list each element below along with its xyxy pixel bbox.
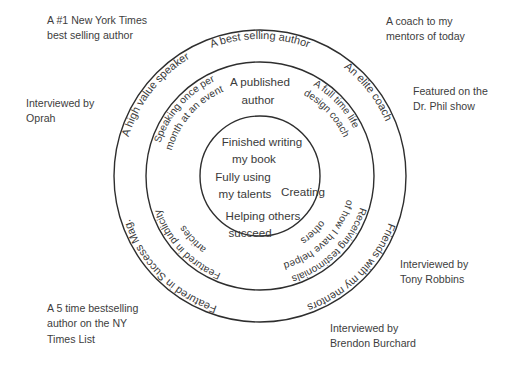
inner-label-fully-using-line1: Fully using [215, 170, 270, 183]
outside-label-nyt-bestseller: A #1 New York Times best selling author [47, 13, 197, 44]
inner-label-creating: Creating [281, 185, 325, 198]
outside-label-interviewed-oprah: Interviewed by Oprah [26, 96, 146, 127]
middle-label-published-author-line1: A published [230, 75, 290, 88]
outside-label-five-time-bestselling: A 5 time bestselling author on the NY Ti… [47, 301, 177, 347]
middle-label-published-author-line2: author [242, 93, 275, 106]
outside-label-featured-dr-phil: Featured on the Dr. Phil show [413, 84, 512, 115]
inner-label-finished-writing-line2: my book [232, 152, 276, 165]
inner-label-fully-using-line2: my talents [219, 187, 272, 200]
inner-label-helping-others-line1: Helping others [226, 209, 301, 222]
outside-label-coach-to-mentors: A coach to my mentors of today [386, 14, 506, 45]
inner-label-helping-others-line2: succeed [228, 226, 271, 239]
outer-label-best-selling-author-text: A best selling author [208, 29, 312, 50]
inner-label-finished-writing-line1: Finished writing [222, 135, 303, 148]
outside-label-interviewed-brendon-burchard: Interviewed by Brendon Burchard [330, 321, 490, 352]
outside-label-interviewed-tony-robbins: Interviewed by Tony Robbins [400, 257, 512, 288]
outer-label-best-selling-author: A best selling author [208, 29, 312, 50]
